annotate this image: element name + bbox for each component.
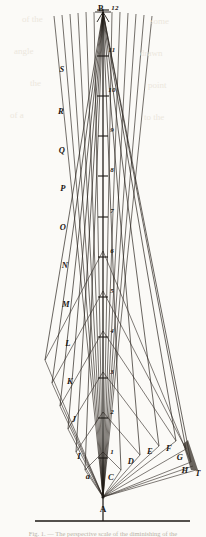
scale-number-1: 1: [110, 449, 114, 456]
scale-number-3: 3: [110, 369, 114, 376]
label-top-vertex-B: B: [98, 4, 104, 13]
left-label-M: M: [62, 300, 70, 309]
right-label-F: F: [166, 444, 172, 453]
cone-outline: [45, 12, 191, 470]
apex-marker: [101, 495, 104, 498]
label-top-number-12: 12: [111, 5, 118, 12]
left-label-Q: Q: [59, 146, 65, 155]
label-apex-A: A: [100, 505, 107, 514]
right-label-E: E: [147, 447, 153, 456]
scale-number-6: 6: [110, 248, 114, 255]
figure-caption: Fig. 1. — The perspective scale of the d…: [0, 530, 206, 537]
scale-number-2: 2: [110, 409, 114, 416]
scale-number-5: 5: [110, 288, 114, 295]
left-label-K: K: [67, 377, 73, 386]
right-label-C: C: [108, 473, 114, 482]
left-fan-lines: [54, 12, 103, 497]
left-label-L: L: [65, 339, 70, 348]
scale-number-11: 11: [108, 47, 115, 54]
left-label-S: S: [60, 65, 65, 74]
left-label-P: P: [60, 184, 65, 193]
right-label-H: H: [182, 466, 189, 475]
right-label-G: G: [177, 453, 183, 462]
nested-envelopes: [45, 251, 191, 497]
right-label-T: T: [195, 469, 200, 478]
perspective-diagram: [0, 0, 206, 537]
left-label-R: R: [58, 107, 64, 116]
scale-number-7: 7: [110, 208, 114, 215]
left-label-N: N: [62, 261, 68, 270]
figure-root: of thesomeangledrawnthepointof ato the B…: [0, 0, 206, 537]
scale-number-8: 8: [110, 167, 114, 174]
left-label-O: O: [60, 223, 66, 232]
scale-number-4: 4: [110, 328, 114, 335]
left-label-a: a: [86, 472, 90, 481]
left-label-I: I: [77, 452, 81, 461]
scale-number-10: 10: [108, 87, 115, 94]
scale-number-9: 9: [110, 127, 114, 134]
left-label-J: J: [72, 415, 76, 424]
right-label-D: D: [128, 457, 134, 466]
